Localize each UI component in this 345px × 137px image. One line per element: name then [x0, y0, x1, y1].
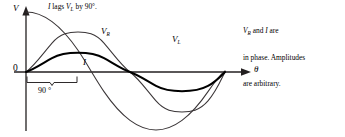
brace-label: 90 °	[38, 86, 51, 95]
annotation-phase-are: are	[268, 26, 279, 35]
annotation-phase-vr-subscript: R	[248, 30, 251, 36]
curve-label-vl-base: V	[172, 34, 178, 44]
curve-label-vr-base: V	[101, 26, 107, 36]
curve-label-vl: VL	[172, 34, 181, 45]
annotation-phase-and: and	[251, 26, 265, 35]
annotation-lag-vl: V	[66, 2, 71, 11]
y-axis-label: V	[13, 3, 19, 14]
annotation-phase-line1: VR and I are	[243, 27, 305, 36]
annotation-phase-line3: are arbitrary.	[243, 80, 305, 89]
origin-label: 0	[13, 63, 18, 74]
curve-label-current: I	[83, 57, 86, 68]
waveform-figure: V θ 0 VR VL I 90 ° I lags VL by 90°. VR …	[0, 0, 345, 137]
annotation-phase-note: VR and I are in phase. Amplitudes are ar…	[243, 10, 305, 106]
curve-label-vl-subscript: L	[178, 39, 181, 45]
annotation-lag-text2: by 90°.	[74, 2, 97, 11]
curve-label-vr: VR	[101, 26, 110, 37]
y-axis	[22, 6, 29, 131]
annotation-lag-note: I lags VL by 90°.	[48, 3, 97, 12]
curve-label-vr-subscript: R	[107, 31, 110, 37]
brace-90deg	[27, 77, 77, 86]
annotation-phase-vr: V	[243, 26, 248, 35]
annotation-lag-text1: lags	[50, 2, 66, 11]
annotation-phase-line2: in phase. Amplitudes	[243, 54, 305, 63]
annotation-lag-vl-subscript: L	[71, 6, 74, 12]
